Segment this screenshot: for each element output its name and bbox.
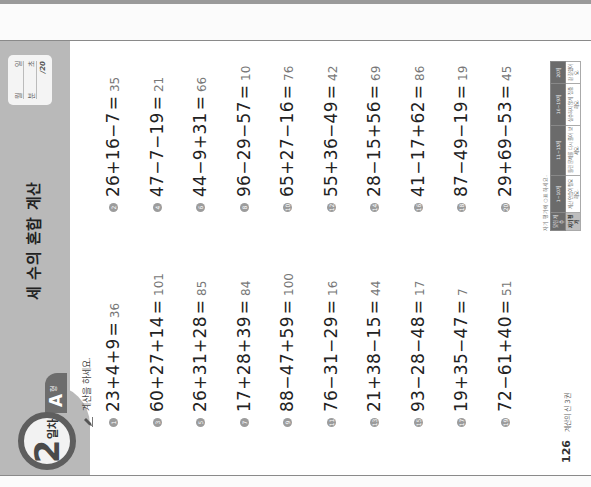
score-box: 월 일 분 초 /20 [8,55,52,105]
problem-number-badge: 12 [327,203,336,212]
problem-expression: 93−28−48 [408,316,428,412]
problem-answer[interactable]: 101 [152,273,166,296]
day-badge: 2 일차 [18,412,76,470]
problem-row: 1593−28−48=171641−17+62=86 [408,47,452,427]
month-label: 월 [13,93,23,99]
problem-answer[interactable]: 84 [239,281,253,296]
problem-row: 1176−31−29=161255+36−49=42 [321,47,365,427]
problem-item: 1321+38−15=44 [364,281,384,427]
problem-row: 123+4+9=36226+16−7=35 [103,47,147,427]
problem-expression: 19+35−47 [451,316,471,412]
problem-answer[interactable]: 17 [413,281,427,296]
problem-answer[interactable]: 86 [413,66,427,81]
equals-sign: = [451,300,471,314]
instruction: 계산을 하세요. [80,357,93,427]
score-total: /20 [39,61,47,99]
page-footer: 126 계산의 신 3권 [560,393,573,463]
self-eval-header-row: 맞힌 개수 1~10개 11~15개 16~19개 20개 [551,62,566,231]
problem-expression: 72−61+40 [495,316,515,412]
problem-number-badge: 7 [240,418,249,427]
self-eval-cell[interactable]: 계산 연습이 필요해요. [566,175,581,213]
problem-answer[interactable]: 51 [500,281,514,296]
self-eval-cell[interactable]: 틀린 문제를 다시 풀어 보세요. [566,125,581,175]
problem-item: 1972−61+40=51 [495,281,515,427]
type-tab: A 형 [45,373,67,413]
equals-sign: = [234,300,254,314]
problem-answer[interactable]: 66 [195,77,209,92]
problem-number-badge: 16 [414,203,423,212]
problem-expression: 28−15+56 [364,101,384,197]
problem-answer[interactable]: 69 [369,66,383,81]
page-title: 세 수의 혼합 계산 [22,181,43,300]
problem-answer[interactable]: 100 [282,273,296,296]
problem-number-badge: 10 [283,203,292,212]
problem-expression: 96−29−57 [234,101,254,197]
problem-number-badge: 20 [501,203,510,212]
problem-item: 1641−17+62=86 [408,66,428,212]
equals-sign: = [277,85,297,99]
problem-answer[interactable]: 16 [326,281,340,296]
problem-item: 1887−49−19=19 [451,66,471,212]
problem-expression: 55+36−49 [321,101,341,197]
self-evaluation: 자기 평가에 ○표 하세요. 맞힌 개수 1~10개 11~15개 16~19개… [541,61,581,231]
equals-sign: = [364,85,384,99]
problem-row: 360+27+14=101447−7−19=21 [147,47,191,427]
problem-answer[interactable]: 85 [195,281,209,296]
problem-number-badge: 1 [109,418,118,427]
problem-item: 1255+36−49=42 [321,66,341,212]
problem-number-badge: 18 [457,203,466,212]
minutes-label: 분 [26,93,36,99]
day-label: 일 [13,61,23,67]
problem-answer[interactable]: 7 [456,288,470,296]
problem-number-badge: 17 [457,418,466,427]
equals-sign: = [321,300,341,314]
book-title: 계산의 신 3권 [564,393,572,432]
problem-answer[interactable]: 19 [456,66,470,81]
problem-expression: 26+31+28 [190,316,210,412]
problem-expression: 23+4+9 [103,338,123,412]
problem-number-badge: 19 [501,418,510,427]
problem-item: 2029+69−53=45 [495,66,515,212]
day-number: 2 [30,440,64,464]
problem-number-badge: 9 [283,418,292,427]
problem-number-badge: 15 [414,418,423,427]
self-eval-cell[interactable]: 실수하지 않게 집중해요. [566,84,581,125]
problem-item: 447−7−19=21 [147,77,167,212]
problem-number-badge: 5 [196,418,205,427]
problem-expression: 41−17+62 [408,101,428,197]
problem-answer[interactable]: 45 [500,66,514,81]
scan-top-edge [0,0,591,4]
problem-expression: 26+16−7 [103,112,123,197]
problem-expression: 65+27−16 [277,101,297,197]
pencil-icon [83,417,93,427]
problem-number-badge: 3 [153,418,162,427]
equals-sign: = [451,85,471,99]
equals-sign: = [103,322,123,336]
problem-item: 1428−15+56=69 [364,66,384,212]
problem-row: 1719+35−47=71887−49−19=19 [451,47,495,427]
self-eval-table: 맞힌 개수 1~10개 11~15개 16~19개 20개 자기 평가 계산 연… [550,61,581,231]
problem-item: 1065+27−16=76 [277,66,297,212]
equals-sign: = [147,300,167,314]
equals-sign: = [190,300,210,314]
equals-sign: = [364,300,384,314]
problem-expression: 29+69−53 [495,101,515,197]
problem-answer[interactable]: 36 [108,303,122,318]
problem-item: 644−9+31=66 [190,77,210,212]
problem-number-badge: 11 [327,418,336,427]
page-number: 126 [560,440,573,463]
problem-answer[interactable]: 76 [282,66,296,81]
problem-expression: 21+38−15 [364,316,384,412]
problem-expression: 47−7−19 [147,112,167,197]
problem-item: 717+28+39=84 [234,281,254,427]
self-eval-cell[interactable]: 참 잘했어요. [566,62,581,84]
self-eval-header: 11~15개 [551,125,566,175]
problem-answer[interactable]: 21 [152,77,166,92]
instruction-text: 계산을 하세요. [82,357,92,411]
equals-sign: = [321,85,341,99]
self-eval-header: 16~19개 [551,84,566,125]
problem-answer[interactable]: 42 [326,66,340,81]
problem-answer[interactable]: 44 [369,281,383,296]
problem-answer[interactable]: 10 [239,66,253,81]
problem-answer[interactable]: 35 [108,77,122,92]
